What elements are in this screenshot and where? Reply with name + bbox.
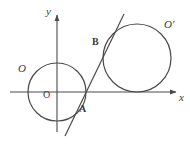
circle-o-prime <box>103 24 171 92</box>
circle-o-label: O <box>18 63 26 74</box>
origin-label: O <box>43 90 50 100</box>
x-axis-label: x <box>179 92 184 103</box>
secant-line <box>65 14 124 136</box>
geometry-figure: y x O O O′ A B <box>0 0 190 147</box>
geometry-canvas <box>0 0 190 147</box>
point-a-label: A <box>79 104 86 114</box>
circle-o-prime-label: O′ <box>164 19 174 30</box>
point-b-label: B <box>92 37 99 47</box>
y-axis-label: y <box>46 6 51 17</box>
